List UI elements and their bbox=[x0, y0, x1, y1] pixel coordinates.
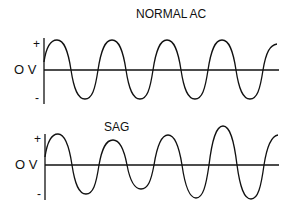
sag-wave bbox=[45, 126, 278, 199]
waveform-diagram bbox=[0, 0, 293, 214]
